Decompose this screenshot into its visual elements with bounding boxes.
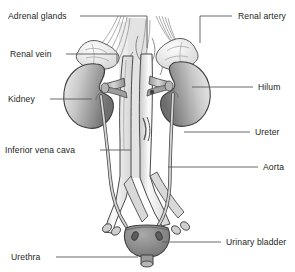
- anatomy-illustration: [0, 0, 295, 272]
- urinary-system-diagram: Adrenal glands Renal vein Kidney Inferio…: [0, 0, 295, 272]
- label-kidney: Kidney: [8, 95, 35, 104]
- label-hilum: Hilum: [258, 83, 280, 92]
- label-urinary-bladder: Urinary bladder: [226, 238, 286, 247]
- label-urethra: Urethra: [11, 253, 40, 262]
- leader-renal-artery: [200, 16, 232, 43]
- label-ureter: Ureter: [255, 128, 279, 137]
- label-renal-vein: Renal vein: [10, 50, 52, 59]
- label-aorta: Aorta: [263, 163, 284, 172]
- right-kidney: [161, 62, 211, 127]
- label-inferior-vena-cava: Inferior vena cava: [5, 146, 75, 155]
- label-renal-artery: Renal artery: [238, 12, 286, 21]
- label-adrenal-glands: Adrenal glands: [8, 12, 67, 21]
- left-kidney: [64, 64, 114, 129]
- urinary-bladder: [124, 225, 169, 257]
- urethra: [141, 255, 153, 267]
